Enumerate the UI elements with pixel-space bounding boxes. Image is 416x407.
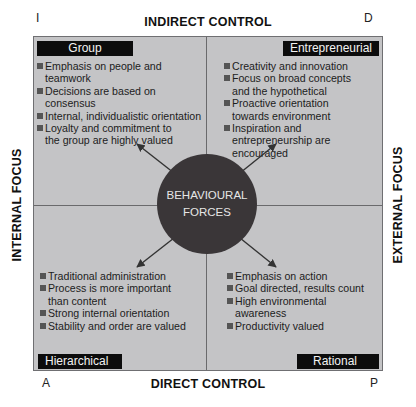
- axis-label-right: EXTERNAL FOCUS: [391, 146, 405, 263]
- axis-label-left: INTERNAL FOCUS: [10, 149, 24, 262]
- axis-label-bottom: DIRECT CONTROL: [0, 377, 416, 391]
- axis-label-top: INDIRECT CONTROL: [0, 15, 416, 29]
- behavioural-forces-circle: BEHAVIOURAL FORCES: [157, 154, 257, 254]
- quadrant-frame: Group Emphasis on people and teamwork De…: [33, 36, 383, 371]
